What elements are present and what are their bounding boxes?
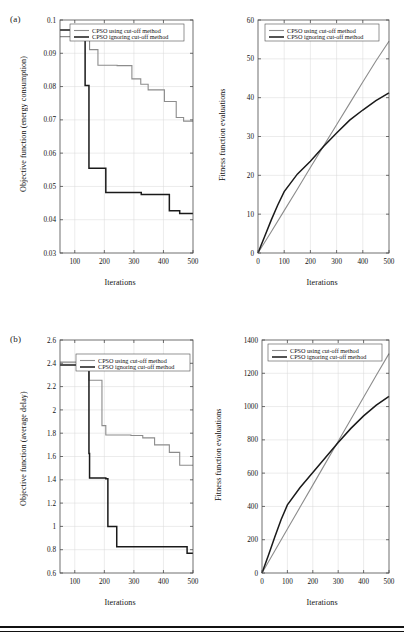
y-tick-label: 1400 [244, 337, 259, 345]
x-tick-label: 500 [384, 258, 395, 266]
y-tick-label: 0.06 [43, 150, 56, 158]
x-tick-label: 100 [279, 258, 290, 266]
x-tick-labels: 100 200 300 400 500 [69, 258, 198, 266]
y-tick-labels: 1400 1200 1000 800 600 400 200 0 [244, 337, 259, 578]
x-tick-label: 0 [260, 578, 264, 586]
y-tick-labels: 0.1 0.09 0.08 0.07 0.06 0.05 0.04 0.03 [43, 17, 56, 258]
y-tick-label: 50 [247, 55, 255, 63]
y-tick-label: 1000 [244, 403, 259, 411]
y-tick-label: 60 [247, 17, 255, 25]
x-tick-label: 200 [305, 258, 316, 266]
y-tick-label: 2.4 [47, 360, 56, 368]
y-tick-label: 0.03 [43, 250, 56, 258]
x-tick-label: 500 [188, 578, 199, 586]
y-tick-label: 0.04 [43, 216, 56, 224]
y-tick-label: 2.2 [47, 383, 56, 391]
x-tick-label: 300 [128, 258, 139, 266]
y-tick-label: 800 [247, 436, 258, 444]
plot-background [60, 20, 193, 253]
x-tick-label: 500 [188, 258, 199, 266]
y-tick-label: 400 [247, 503, 258, 511]
panel-b-plot: 2.6 2.4 2.2 2 1.8 1.6 1.4 1.2 1 0.8 0.6 … [0, 310, 202, 610]
legend: CPSO using cut-off method CPSO ignoring … [70, 24, 184, 41]
x-tick-labels: 100 200 300 400 500 [69, 578, 198, 586]
y-tick-label: 0.09 [43, 50, 56, 58]
legend-label-ignoring-cutoff: CPSO ignoring cut-off method [290, 353, 367, 360]
panel-a-objective: (a) Objective function (energy consumpti… [0, 0, 202, 310]
legend-label-ignoring-cutoff: CPSO ignoring cut-off method [92, 33, 169, 40]
y-tick-label: 600 [247, 470, 258, 478]
y-tick-labels: 2.6 2.4 2.2 2 1.8 1.6 1.4 1.2 1 0.8 0.6 [47, 337, 56, 578]
x-tick-labels: 0 100 200 300 400 500 [256, 258, 395, 266]
panel-a-fitness-plot: 60 50 40 30 20 10 0 0 100 200 300 400 50… [202, 0, 404, 290]
x-tick-label: 500 [384, 578, 395, 586]
y-tick-label: 1.2 [47, 500, 56, 508]
legend: CPSO using cut-off method CPSO ignoring … [265, 24, 379, 41]
y-tick-labels: 60 50 40 30 20 10 0 [247, 17, 255, 258]
y-tick-label: 0.05 [43, 183, 56, 191]
y-tick-label: 10 [247, 211, 255, 219]
figure-container: (a) Objective function (energy consumpti… [0, 0, 404, 641]
y-tick-label: 0.1 [47, 17, 56, 25]
y-tick-label: 2.6 [47, 337, 56, 345]
x-tick-label: 0 [256, 258, 260, 266]
panel-a-fitness: Fitness function evaluations Iterations [202, 0, 404, 310]
panel-b-fitness-plot: 1400 1200 1000 800 600 400 200 0 0 100 2… [202, 310, 404, 610]
x-tick-label: 400 [357, 258, 368, 266]
y-tick-label: 0 [250, 250, 254, 258]
legend-label-ignoring-cutoff: CPSO ignoring cut-off method [287, 33, 364, 40]
x-tick-labels: 0 100 200 300 400 500 [260, 578, 395, 586]
y-tick-label: 0.08 [43, 83, 56, 91]
y-tick-label: 0.8 [47, 546, 56, 554]
y-tick-label: 1.4 [47, 476, 56, 484]
y-tick-label: 2 [52, 407, 56, 415]
y-tick-label: 0 [254, 570, 258, 578]
x-tick-label: 400 [158, 578, 169, 586]
y-tick-label: 200 [247, 536, 258, 544]
y-tick-label: 30 [247, 133, 255, 141]
x-tick-label: 100 [69, 258, 80, 266]
x-tick-label: 400 [158, 258, 169, 266]
x-tick-label: 300 [333, 578, 344, 586]
footer-rule-thin [0, 631, 404, 632]
y-tick-label: 1200 [244, 370, 259, 378]
x-tick-label: 400 [358, 578, 369, 586]
x-tick-label: 200 [307, 578, 318, 586]
panel-b-objective: (b) Objective function (average delay) I… [0, 310, 202, 620]
y-tick-label: 0.07 [43, 116, 56, 124]
y-tick-label: 20 [247, 172, 255, 180]
y-tick-label: 0.6 [47, 570, 56, 578]
x-tick-label: 100 [282, 578, 293, 586]
legend: CPSO using cut-off method CPSO ignoring … [76, 354, 190, 371]
x-tick-label: 300 [128, 578, 139, 586]
panel-b-fitness: Fitness function evaluations Iterations [202, 310, 404, 620]
legend: CPSO using cut-off method CPSO ignoring … [268, 344, 382, 361]
panel-a-plot: 0.1 0.09 0.08 0.07 0.06 0.05 0.04 0.03 1… [0, 0, 202, 290]
x-tick-label: 200 [99, 578, 110, 586]
x-tick-label: 100 [69, 578, 80, 586]
y-tick-label: 1.6 [47, 453, 56, 461]
x-tick-label: 200 [99, 258, 110, 266]
y-tick-label: 40 [247, 94, 255, 102]
footer-rule-thick [0, 626, 404, 628]
legend-label-ignoring-cutoff: CPSO ignoring cut-off method [98, 363, 175, 370]
x-tick-label: 300 [331, 258, 342, 266]
y-tick-label: 1 [52, 523, 56, 531]
y-tick-label: 1.8 [47, 430, 56, 438]
